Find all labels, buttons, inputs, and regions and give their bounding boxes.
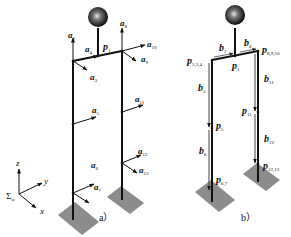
label-p8910: p8,9,10 [261,44,280,57]
label-b2: b2 [219,42,227,54]
x-axis-label: x [39,206,44,216]
head-sphere [225,5,245,25]
label-a11: a11 [135,94,145,105]
figure-b: b2 b8 p8,9,10 p2,3,4 p1 b11 b5 p11 p5 b1… [186,5,280,223]
axis-a3-arrow [73,61,87,70]
label-b12: b12 [264,133,275,145]
axis-a5-arrow [73,117,96,124]
axis-a6-arrow [73,184,94,193]
axis-a12-arrow [122,155,141,163]
label-a12: a12 [138,146,148,157]
label-a5: a5 [92,105,100,116]
label-p1: p1 [102,41,111,53]
label-p5: p5 [215,120,224,132]
left-foot-plate [195,180,235,212]
label-a7: a7 [94,182,102,193]
world-frame: z y x Σw [6,158,48,216]
axis-a10-arrow [122,45,145,51]
x-axis-arrow [19,194,36,208]
robot-kinematic-diagram: a2 a4 p1 a3 a8 a9 a10 a5 a11 a6 a7 a12 a… [0,0,291,237]
z-axis-label: z [15,158,20,168]
caption-a: a） [99,212,113,223]
label-a3: a3 [90,72,98,83]
label-p1: p1 [231,60,240,72]
label-p11: p11 [241,105,252,117]
frame-label: Σw [6,191,15,202]
y-axis-label: y [43,176,48,186]
label-a8: a8 [120,18,128,29]
axis-a13-arrow [122,163,137,173]
label-b6: b6 [199,145,207,157]
axis-a9-arrow [122,51,136,61]
label-a13: a13 [139,165,149,176]
y-axis-arrow [19,183,42,194]
figure-a: a2 a4 p1 a3 a8 a9 a10 a5 a11 a6 a7 a12 a… [58,7,157,235]
label-a4: a4 [85,44,93,55]
label-b11: b11 [264,73,274,85]
right-foot-plate [107,186,144,214]
label-a9: a9 [141,54,149,65]
label-a2: a2 [68,30,76,41]
left-foot-plate [58,202,99,235]
axis-a4-arrow [80,56,98,60]
axis-a11-arrow [122,105,143,112]
label-a6: a6 [91,160,99,171]
label-p234: p2,3,4 [186,55,203,68]
label-a10: a10 [147,39,157,50]
label-b8: b8 [244,37,252,49]
head-sphere [88,7,108,27]
axis-a7-arrow [73,193,89,203]
label-b5: b5 [198,82,206,94]
caption-b: b） [241,212,256,223]
